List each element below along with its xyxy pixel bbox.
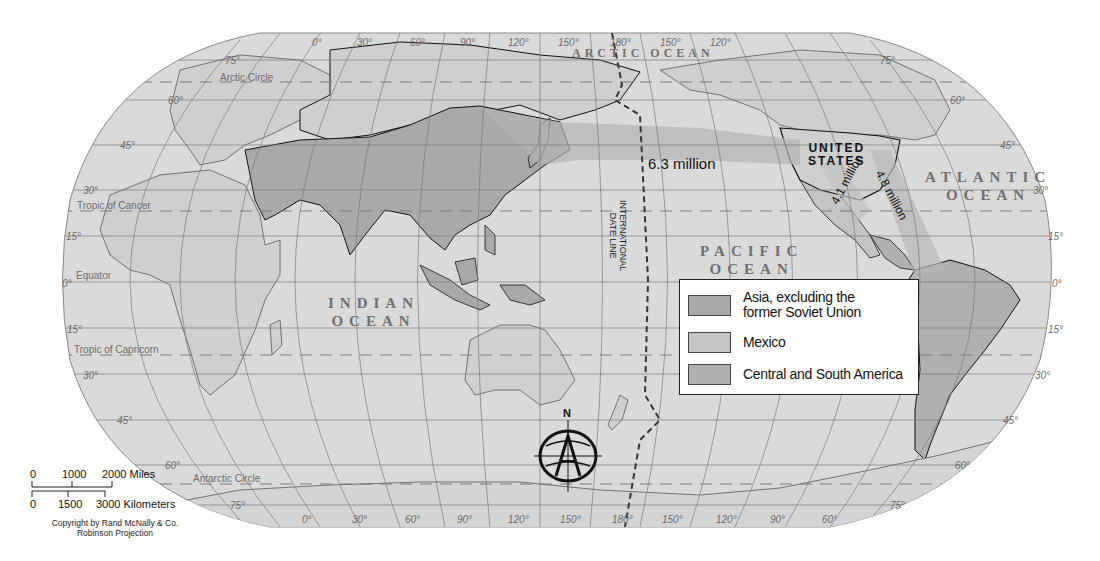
legend-label-asia-line1: Asia, excluding the [743, 290, 861, 305]
lon-label-top-120w: 120° [710, 37, 731, 48]
legend-swatch-mexico [688, 332, 731, 353]
lon-label-bottom-120w: 120° [716, 514, 737, 525]
lat-label-right-15n: 15° [1048, 231, 1063, 242]
lat-label-left-15n: 15° [66, 231, 81, 242]
legend-item-mexico: Mexico [688, 332, 786, 353]
projection-text: Robinson Projection [30, 528, 200, 538]
legend-swatch-latam [688, 364, 731, 385]
legend-item-asia: Asia, excluding the former Soviet Union [688, 290, 861, 320]
lat-label-right-75s: 75° [890, 500, 905, 511]
lat-label-right-15s: 15° [1048, 324, 1063, 335]
lon-label-top-150e: 150° [558, 37, 579, 48]
lat-label-left-15s: 15° [67, 324, 82, 335]
arctic-ocean-label: ARCTIC OCEAN [572, 44, 714, 62]
lat-label-right-30n: 30° [1033, 185, 1048, 196]
lat-label-left-45s: 45° [117, 415, 132, 426]
pacific-ocean-label: PACIFIC OCEAN [700, 242, 803, 278]
flow-label-asia: 6.3 million [648, 155, 716, 172]
lat-label-right-30s: 30° [1035, 370, 1050, 381]
lat-label-right-0: 0° [1052, 278, 1062, 289]
lon-label-top-150w: 150° [660, 37, 681, 48]
lat-label-left-30n: 30° [83, 185, 98, 196]
indian-line-2: OCEAN [328, 312, 419, 330]
lon-label-bottom-90e: 90° [457, 514, 472, 525]
lon-label-bottom-150w: 150° [662, 514, 683, 525]
lon-label-bottom-120e: 120° [508, 514, 529, 525]
lon-label-bottom-180: 180° [612, 514, 633, 525]
legend-item-latam: Central and South America [688, 364, 903, 385]
scale-km-3000: 3000 Kilometers [96, 498, 176, 510]
lon-label-bottom-60e: 60° [405, 514, 420, 525]
lon-label-bottom-60w: 60° [822, 514, 837, 525]
scale-km-1500: 1500 [58, 498, 82, 510]
copyright-text: Copyright by Rand McNally & Co. [30, 518, 200, 528]
world-map [0, 0, 1100, 561]
date-line-label: INTERNATIONAL DATE LINE [608, 200, 628, 271]
lon-label-top-90e: 90° [460, 37, 475, 48]
lat-label-right-60n: 60° [950, 95, 965, 106]
lon-label-top-120e: 120° [508, 37, 529, 48]
lat-label-left-60n: 60° [168, 95, 183, 106]
lat-label-left-60s: 60° [165, 460, 180, 471]
scale-miles-2000: 2000 Miles [102, 468, 155, 480]
lon-label-bottom-90w: 90° [770, 514, 785, 525]
lat-label-right-60s: 60° [955, 460, 970, 471]
lon-label-bottom-150e: 150° [560, 514, 581, 525]
lat-label-left-45n: 45° [120, 140, 135, 151]
lon-label-top-180: 180° [610, 37, 631, 48]
lat-label-right-75n: 75° [880, 55, 895, 66]
lat-label-left-75n: 75° [225, 55, 240, 66]
legend-label-asia-line2: former Soviet Union [743, 305, 861, 320]
scale-km-0: 0 [30, 498, 36, 510]
atlantic-line-1: ATLANTIC [925, 168, 1051, 186]
scale-miles-1000: 1000 [62, 468, 86, 480]
tropic-cancer-label: Tropic of Cancer [77, 200, 151, 211]
date-line-2: DATE LINE [608, 200, 618, 271]
lon-label-bottom-0: 0° [302, 514, 312, 525]
map-legend: Asia, excluding the former Soviet Union … [679, 279, 919, 395]
lon-label-bottom-30e: 30° [352, 514, 367, 525]
antarctic-circle-label: Antarctic Circle [193, 473, 260, 484]
date-line-1: INTERNATIONAL [618, 200, 628, 271]
lon-label-top-0: 0° [312, 37, 322, 48]
arctic-circle-label: Arctic Circle [220, 72, 273, 83]
pacific-line-2: OCEAN [700, 260, 803, 278]
legend-label-mexico: Mexico [743, 335, 786, 350]
scale-miles-0: 0 [30, 468, 36, 480]
lat-label-right-45n: 45° [1000, 140, 1015, 151]
legend-label-latam: Central and South America [743, 367, 903, 382]
pacific-line-1: PACIFIC [700, 242, 803, 260]
equator-label: Equator [76, 270, 111, 281]
legend-label-asia: Asia, excluding the former Soviet Union [743, 290, 861, 320]
lon-label-top-60e: 60° [410, 37, 425, 48]
lat-label-left-75s: 75° [230, 500, 245, 511]
legend-swatch-asia [688, 295, 731, 316]
copyright-note: Copyright by Rand McNally & Co. Robinson… [30, 518, 200, 538]
lat-label-right-45s: 45° [1003, 415, 1018, 426]
tropic-capricorn-label: Tropic of Capricorn [74, 344, 159, 355]
indian-line-1: INDIAN [328, 294, 419, 312]
lon-label-top-30e: 30° [357, 37, 372, 48]
indian-ocean-label: INDIAN OCEAN [328, 294, 419, 330]
compass-north-label: N [563, 407, 571, 419]
lat-label-left-0: 0° [62, 278, 72, 289]
lat-label-left-30s: 30° [83, 370, 98, 381]
